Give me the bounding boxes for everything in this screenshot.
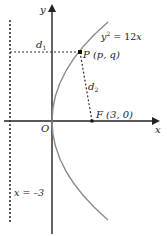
curve-equation-label: y2 = 12x: [100, 30, 142, 42]
point-p-marker: [78, 50, 82, 54]
origin-label: O: [41, 123, 49, 134]
point-p-label: P (p, q): [82, 49, 120, 60]
directrix-label: x = –3: [14, 187, 44, 198]
point-f-marker: [91, 120, 94, 123]
d1-label: d1: [36, 39, 46, 51]
d2-label: d2: [88, 81, 98, 93]
y-axis-label: y: [39, 4, 46, 15]
x-axis-label: x: [155, 124, 161, 135]
focus-label: F (3, 0): [95, 109, 133, 120]
parabola-diagram: y x O y2 = 12x P (p, q) d1 d2 F (3, 0) x…: [0, 0, 167, 236]
